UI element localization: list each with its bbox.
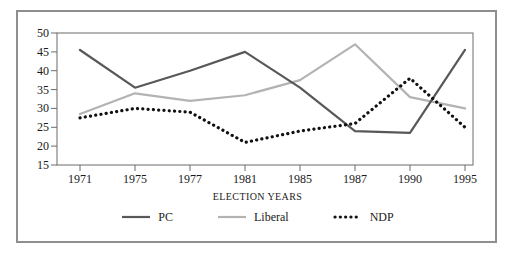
legend-item-pc[interactable]: PC	[121, 211, 173, 223]
xtick-label: 1995	[440, 173, 490, 185]
xtick-label: 1985	[275, 173, 325, 185]
xtick-label: 1990	[385, 173, 435, 185]
legend-item-liberal[interactable]: Liberal	[217, 211, 289, 223]
legend-label: NDP	[370, 211, 394, 223]
series-line-pc	[80, 50, 465, 133]
xtick-label: 1987	[330, 173, 380, 185]
ytick-label: 25	[25, 121, 49, 133]
ytick-label: 35	[25, 84, 49, 96]
xtick-label: 1977	[165, 173, 215, 185]
ytick-label: 30	[25, 102, 49, 114]
legend-item-ndp[interactable]: NDP	[333, 211, 394, 223]
xtick-label: 1975	[110, 173, 160, 185]
chart-figure: 50 45 40 35 30 25 20 15 1971 1975 1977 1…	[0, 0, 515, 256]
xtick-label: 1971	[55, 173, 105, 185]
xtick-label: 1981	[220, 173, 270, 185]
ytick-label: 40	[25, 65, 49, 77]
ytick-label: 15	[25, 159, 49, 171]
legend-label: Liberal	[254, 211, 289, 223]
series-line-liberal	[80, 44, 465, 114]
ytick-label: 50	[25, 27, 49, 39]
chart-legend: PC Liberal NDP	[0, 211, 515, 223]
x-axis-title: ELECTION YEARS	[0, 191, 515, 202]
legend-label: PC	[158, 211, 173, 223]
ytick-label: 20	[25, 140, 49, 152]
legend-line-icon-ndp	[333, 212, 363, 222]
legend-line-icon-liberal	[217, 212, 247, 222]
legend-line-icon-pc	[121, 212, 151, 222]
ytick-label: 45	[25, 46, 49, 58]
